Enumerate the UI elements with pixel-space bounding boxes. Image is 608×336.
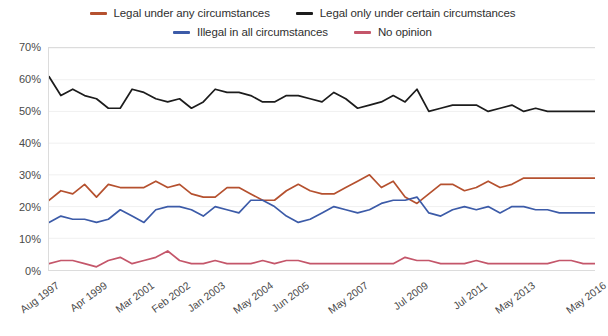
plot-container: 0%10%20%30%40%50%60%70% xyxy=(0,47,605,279)
legend-swatch-icon xyxy=(173,31,190,34)
y-axis-tick-label: 20% xyxy=(19,202,41,213)
x-axis-tick-label: May 2007 xyxy=(326,279,370,316)
legend-item-legal-any[interactable]: Legal under any circumstances xyxy=(90,7,270,20)
legend-label: Illegal in all circumstances xyxy=(197,26,328,39)
legend-row-2: Illegal in all circumstances No opinion xyxy=(6,23,599,42)
legend-label: Legal only under certain circumstances xyxy=(320,7,516,20)
x-axis-tick-label: Jul 2011 xyxy=(451,279,490,312)
line-chart-svg xyxy=(49,48,595,270)
chart-plot-area xyxy=(48,47,595,271)
legend-item-legal-certain[interactable]: Legal only under certain circumstances xyxy=(296,7,516,20)
chart-legend: Legal under any circumstances Legal only… xyxy=(0,4,605,42)
legend-swatch-icon xyxy=(90,12,107,15)
y-axis-labels: 0%10%20%30%40%50%60%70% xyxy=(0,47,45,279)
x-axis-tick-label: Aug 1997 xyxy=(18,279,61,315)
x-axis-labels: Aug 1997Apr 1999Mar 2001Feb 2002Jan 2003… xyxy=(0,279,605,336)
y-axis-tick-label: 70% xyxy=(19,42,41,53)
y-axis-tick-label: 40% xyxy=(19,138,41,149)
legend-swatch-icon xyxy=(296,12,313,15)
legend-item-illegal-all[interactable]: Illegal in all circumstances xyxy=(173,26,328,39)
legend-label: Legal under any circumstances xyxy=(114,7,270,20)
x-axis-tick-label: Jan 2003 xyxy=(186,279,228,314)
x-axis-tick-label: May 2004 xyxy=(231,279,275,316)
x-axis-tick-label: May 2016 xyxy=(564,279,608,316)
legend-item-no-opinion[interactable]: No opinion xyxy=(354,26,432,39)
legend-swatch-icon xyxy=(354,31,371,34)
y-axis-tick-label: 10% xyxy=(19,234,41,245)
legend-label: No opinion xyxy=(378,26,432,39)
x-axis-tick-label: Apr 1999 xyxy=(67,279,109,314)
x-axis-tick-label: Mar 2001 xyxy=(113,279,156,315)
series-line xyxy=(49,175,595,204)
x-axis-tick-label: Jun 2005 xyxy=(269,279,311,314)
y-axis-tick-label: 0% xyxy=(25,266,41,277)
y-axis-tick-label: 60% xyxy=(19,74,41,85)
y-axis-tick-label: 50% xyxy=(19,106,41,117)
x-axis-tick-label: May 2013 xyxy=(492,279,536,316)
legend-row-1: Legal under any circumstances Legal only… xyxy=(6,4,599,23)
x-axis-tick-label: Jul 2009 xyxy=(391,279,430,312)
series-line xyxy=(49,251,595,267)
series-line xyxy=(49,77,595,112)
series-line xyxy=(49,197,595,222)
x-axis-tick-label: Feb 2002 xyxy=(149,279,192,315)
y-axis-tick-label: 30% xyxy=(19,170,41,181)
